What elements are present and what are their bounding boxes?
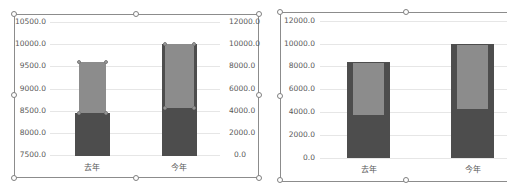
gridline: [50, 22, 220, 23]
bar-selection-handle[interactable]: [192, 42, 196, 46]
axis-tick: 10000.0: [269, 39, 315, 49]
axis-tick: 8000.0: [269, 61, 315, 71]
resize-handle-bottom-left[interactable]: [11, 175, 17, 181]
axis-tick: 0.0: [269, 153, 315, 163]
bar-selection-handle[interactable]: [163, 106, 167, 110]
bar-selection-handle[interactable]: [77, 111, 81, 115]
axis-tick: 12000.0: [269, 16, 315, 26]
bar-last-year-inner[interactable]: [353, 63, 384, 115]
resize-handle-bottom-left[interactable]: [277, 177, 283, 183]
primary-axis-tick: 8500.0: [0, 106, 46, 116]
right-chart[interactable]: 12000.0 10000.0 8000.0 6000.0 4000.0 200…: [265, 0, 507, 196]
resize-handle-bottom[interactable]: [403, 177, 409, 183]
resize-handle-right[interactable]: [256, 92, 262, 98]
bar-selection-handle[interactable]: [192, 106, 196, 110]
category-label: 去年: [72, 163, 112, 173]
secondary-axis-tick: 0.0: [234, 150, 246, 160]
gridline: [320, 158, 507, 159]
bar-selection-handle[interactable]: [77, 60, 81, 64]
category-label: 去年: [349, 165, 389, 175]
bar-this-year-range[interactable]: [165, 44, 194, 108]
bar-last-year-base[interactable]: [75, 113, 110, 156]
category-label: 今年: [453, 165, 493, 175]
resize-handle-bottom[interactable]: [133, 175, 139, 181]
bar-selection-handle[interactable]: [163, 42, 167, 46]
resize-handle-bottom-right[interactable]: [256, 175, 262, 181]
axis-tick: 4000.0: [269, 107, 315, 117]
secondary-axis-tick: 8000.0: [229, 61, 255, 71]
resize-handle-top-left[interactable]: [277, 9, 283, 15]
primary-axis-tick: 7500.0: [0, 150, 46, 160]
secondary-axis-tick: 4000.0: [229, 106, 255, 116]
bar-last-year-range[interactable]: [79, 62, 106, 113]
primary-axis-tick: 10000.0: [0, 39, 46, 49]
secondary-axis-tick: 2000.0: [229, 128, 255, 138]
category-label: 今年: [159, 163, 199, 173]
axis-tick: 2000.0: [269, 130, 315, 140]
secondary-axis-tick: 12000.0: [229, 17, 260, 27]
primary-axis-tick: 9500.0: [0, 61, 46, 71]
gridline: [320, 21, 507, 22]
resize-handle-top[interactable]: [133, 11, 139, 17]
left-chart[interactable]: 10500.0 10000.0 9500.0 9000.0 8500.0 800…: [0, 0, 265, 196]
secondary-axis-tick: 6000.0: [229, 84, 255, 94]
primary-axis-tick: 8000.0: [0, 128, 46, 138]
primary-axis-tick: 10500.0: [0, 17, 46, 27]
bar-selection-handle[interactable]: [104, 111, 108, 115]
primary-axis-tick: 9000.0: [0, 84, 46, 94]
resize-handle-top[interactable]: [403, 9, 409, 15]
axis-tick: 6000.0: [269, 84, 315, 94]
bar-this-year-inner[interactable]: [457, 45, 488, 109]
left-chart-border: [14, 14, 259, 178]
bar-selection-handle[interactable]: [104, 60, 108, 64]
secondary-axis-tick: 10000.0: [229, 39, 260, 49]
